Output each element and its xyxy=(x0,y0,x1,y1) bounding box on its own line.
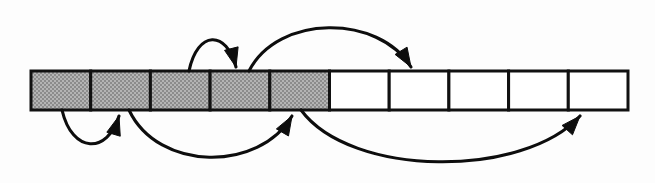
array-cell-6[interactable] xyxy=(389,71,449,110)
arrow-below-medium-curve xyxy=(129,110,292,157)
arrow-above-long-curve xyxy=(249,28,411,71)
arrow-below-medium xyxy=(129,110,292,157)
arrow-below-long xyxy=(301,110,580,162)
array-cell-0[interactable] xyxy=(31,71,91,110)
arrow-below-long-head xyxy=(562,116,580,135)
array-cell-7[interactable] xyxy=(449,71,509,110)
array-cell-5[interactable] xyxy=(330,71,390,110)
array-cell-9[interactable] xyxy=(568,71,628,110)
array-cell-4[interactable] xyxy=(270,71,330,110)
array-cell-3[interactable] xyxy=(210,71,270,110)
arrow-below-long-curve xyxy=(301,110,580,162)
array-cells xyxy=(31,71,628,110)
diagram-canvas xyxy=(0,0,655,183)
array-cell-2[interactable] xyxy=(150,71,210,110)
arrow-below-short-head xyxy=(107,116,120,136)
array-pointer-diagram xyxy=(0,0,655,183)
arrow-above-long xyxy=(249,28,411,71)
arrow-above-short-head xyxy=(225,47,239,67)
arrow-below-short xyxy=(62,110,120,144)
arrow-above-short xyxy=(189,40,238,71)
array-cell-1[interactable] xyxy=(91,71,151,110)
array-cell-8[interactable] xyxy=(509,71,569,110)
